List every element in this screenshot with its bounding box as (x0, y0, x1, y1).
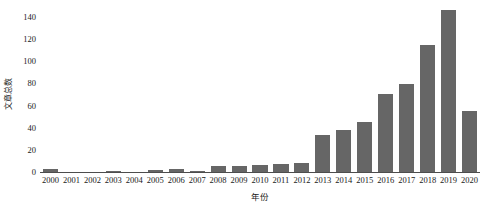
x-axis-tick-label: 2020 (459, 174, 480, 188)
plot-area (40, 8, 480, 172)
x-axis-tick-label: 2006 (166, 174, 187, 188)
bar-slot (312, 8, 333, 172)
bar (420, 45, 435, 172)
bar-slot (438, 8, 459, 172)
x-axis-title: 年份 (40, 190, 480, 202)
x-axis-tick-label: 2001 (61, 174, 82, 188)
y-axis-tick-label: 20 (14, 146, 36, 154)
x-axis-tick-label: 2014 (333, 174, 354, 188)
x-axis-tick-label: 2007 (187, 174, 208, 188)
x-axis-line (40, 172, 480, 173)
x-axis-tick-label: 2009 (229, 174, 250, 188)
bar (273, 164, 288, 172)
x-axis-tick-label: 2010 (250, 174, 271, 188)
y-axis-tick-label: 140 (14, 13, 36, 21)
bar-slot (459, 8, 480, 172)
bar-slot (166, 8, 187, 172)
bar-slot (396, 8, 417, 172)
x-axis-tick-label: 2000 (40, 174, 61, 188)
x-axis-tick-label: 2017 (396, 174, 417, 188)
x-axis-tick-label: 2005 (145, 174, 166, 188)
x-axis-tick-label: 2012 (291, 174, 312, 188)
bar-series (40, 8, 480, 172)
x-axis-tick-label: 2004 (124, 174, 145, 188)
y-axis-tick-label: 120 (14, 35, 36, 43)
bar-slot (145, 8, 166, 172)
bar-slot (291, 8, 312, 172)
x-axis-tick-label: 2003 (103, 174, 124, 188)
bar (357, 122, 372, 172)
y-axis-tick-labels: 020406080100120140 (12, 0, 36, 216)
bar-slot (270, 8, 291, 172)
bar-chart: 文章总数 020406080100120140 2000200120022003… (0, 0, 486, 216)
x-axis-tick-labels: 2000200120022003200420052006200720082009… (40, 174, 480, 188)
x-axis-tick-label: 2018 (417, 174, 438, 188)
y-axis-title: 文章总数 (2, 61, 13, 127)
bar-slot (333, 8, 354, 172)
bar-slot (229, 8, 250, 172)
x-axis-tick-label: 2008 (208, 174, 229, 188)
y-axis-tick-label: 0 (14, 168, 36, 176)
bar-slot (124, 8, 145, 172)
bar-slot (354, 8, 375, 172)
y-axis-tick-label: 40 (14, 124, 36, 132)
x-axis-tick-label: 2002 (82, 174, 103, 188)
bar-slot (250, 8, 271, 172)
bar-slot (40, 8, 61, 172)
bar (399, 84, 414, 172)
bar (462, 111, 477, 172)
x-axis-tick-label: 2013 (312, 174, 333, 188)
bar (441, 10, 456, 172)
bar-slot (103, 8, 124, 172)
bar (294, 163, 309, 172)
bar-slot (61, 8, 82, 172)
bar (315, 135, 330, 172)
x-axis-tick-label: 2019 (438, 174, 459, 188)
y-axis-tick-label: 80 (14, 79, 36, 87)
bar-slot (375, 8, 396, 172)
bar-slot (187, 8, 208, 172)
x-axis-tick-label: 2016 (375, 174, 396, 188)
y-axis-tick-label: 60 (14, 102, 36, 110)
bar (252, 165, 267, 172)
x-axis-tick-label: 2011 (270, 174, 291, 188)
bar-slot (417, 8, 438, 172)
bar-slot (82, 8, 103, 172)
bar (378, 94, 393, 172)
x-axis-tick-label: 2015 (354, 174, 375, 188)
bar (336, 130, 351, 172)
y-axis-tick-label: 100 (14, 57, 36, 65)
bar-slot (208, 8, 229, 172)
